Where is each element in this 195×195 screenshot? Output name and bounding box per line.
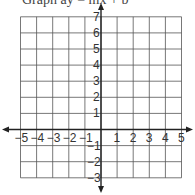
arrow-down-icon xyxy=(98,186,104,193)
x-tick-label: 5 xyxy=(177,132,186,144)
y-tick-label: 7 xyxy=(92,11,101,23)
arrow-left-icon xyxy=(2,127,9,133)
x-tick-label: −2 xyxy=(62,132,78,144)
y-tick-label: −3 xyxy=(86,172,102,184)
y-tick-label: 6 xyxy=(92,27,101,39)
y-tick-label: 2 xyxy=(92,91,101,103)
x-tick-label: 4 xyxy=(161,132,170,144)
y-tick-label: 3 xyxy=(92,75,101,87)
x-tick-label: −4 xyxy=(30,132,46,144)
arrow-right-icon xyxy=(186,127,193,133)
x-tick-label: 1 xyxy=(113,132,122,144)
y-tick-label: −2 xyxy=(86,156,102,168)
x-tick-label: 2 xyxy=(129,132,138,144)
x-tick-label: 3 xyxy=(145,132,154,144)
y-tick-label: 4 xyxy=(92,59,101,71)
y-tick-label: 5 xyxy=(92,43,101,55)
x-tick-label: −5 xyxy=(14,132,30,144)
x-tick-label: −3 xyxy=(46,132,62,144)
arrow-up-icon xyxy=(98,3,104,10)
y-tick-label: 1 xyxy=(92,107,101,119)
y-tick-label: −1 xyxy=(86,140,102,152)
